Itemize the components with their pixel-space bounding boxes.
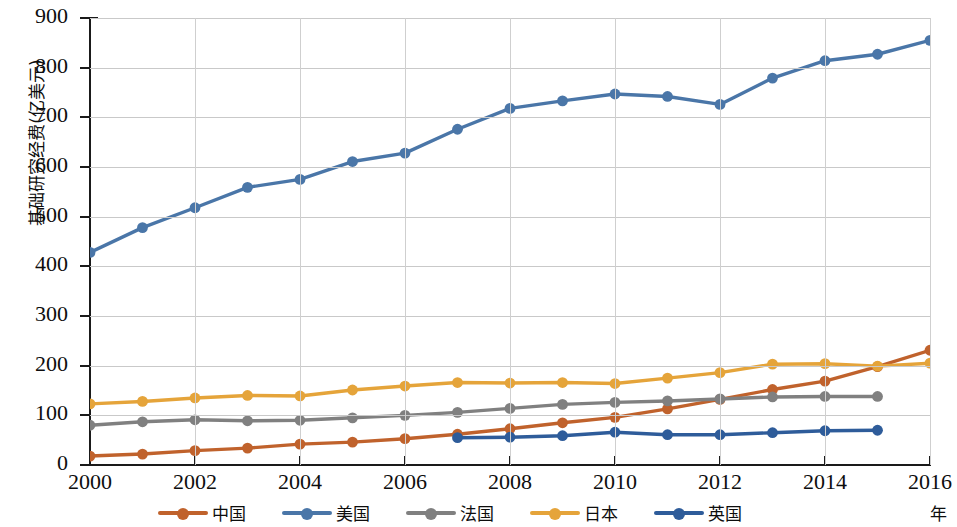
vertical-gridline bbox=[300, 18, 301, 465]
y-axis-tick-label: 600 bbox=[0, 154, 68, 176]
data-point bbox=[452, 124, 463, 135]
y-axis-tick bbox=[80, 216, 90, 218]
y-axis-tick-label: 300 bbox=[0, 303, 68, 325]
data-point bbox=[557, 96, 568, 107]
legend-swatch-icon bbox=[406, 505, 456, 521]
y-axis-tick bbox=[80, 265, 90, 267]
y-axis-tick bbox=[80, 365, 90, 367]
data-point bbox=[90, 451, 95, 462]
data-point bbox=[137, 222, 148, 233]
y-axis-tick bbox=[80, 414, 90, 416]
x-axis-tick-label: 2006 bbox=[362, 471, 448, 493]
legend-item-日本[interactable]: 日本 bbox=[530, 500, 618, 525]
y-axis-tick-label: 700 bbox=[0, 104, 68, 126]
legend-marker-dot-icon bbox=[301, 508, 313, 520]
x-axis-title: 年 bbox=[930, 500, 947, 525]
data-point bbox=[662, 429, 673, 440]
y-axis-title: 基础研究经费(亿美元) bbox=[23, 13, 48, 273]
legend-marker-dot-icon bbox=[673, 508, 685, 520]
data-point bbox=[662, 373, 673, 384]
legend-item-中国[interactable]: 中国 bbox=[158, 500, 246, 525]
vertical-gridline bbox=[405, 18, 406, 465]
y-axis-tick bbox=[80, 166, 90, 168]
legend-marker-dot-icon bbox=[177, 508, 189, 520]
legend-label: 法国 bbox=[460, 500, 494, 525]
y-axis-tick bbox=[80, 315, 90, 317]
vertical-gridline bbox=[825, 18, 826, 465]
data-point bbox=[242, 415, 253, 426]
data-point bbox=[767, 392, 778, 403]
data-point bbox=[767, 359, 778, 370]
data-point bbox=[137, 396, 148, 407]
data-point bbox=[557, 377, 568, 388]
legend-label: 英国 bbox=[708, 500, 742, 525]
vertical-gridline bbox=[930, 18, 931, 465]
data-point bbox=[347, 437, 358, 448]
vertical-gridline bbox=[615, 18, 616, 465]
data-point bbox=[242, 390, 253, 401]
plot-area bbox=[90, 18, 930, 465]
data-point bbox=[137, 449, 148, 460]
data-point bbox=[557, 430, 568, 441]
x-axis-tick-label: 2002 bbox=[152, 471, 238, 493]
legend-item-英国[interactable]: 英国 bbox=[654, 500, 742, 525]
data-point bbox=[347, 156, 358, 167]
data-point bbox=[452, 377, 463, 388]
data-point bbox=[557, 399, 568, 410]
y-axis-tick bbox=[80, 116, 90, 118]
data-point bbox=[347, 385, 358, 396]
x-axis-tick-label: 2004 bbox=[257, 471, 343, 493]
vertical-gridline bbox=[720, 18, 721, 465]
vertical-gridline bbox=[195, 18, 196, 465]
data-point bbox=[557, 417, 568, 428]
legend-item-法国[interactable]: 法国 bbox=[406, 500, 494, 525]
y-axis-tick-label: 900 bbox=[0, 5, 68, 27]
legend-label: 美国 bbox=[336, 500, 370, 525]
y-axis-tick-label: 500 bbox=[0, 204, 68, 226]
x-axis-tick-label: 2010 bbox=[572, 471, 658, 493]
data-point bbox=[90, 420, 95, 431]
legend-marker-dot-icon bbox=[425, 508, 437, 520]
data-point bbox=[767, 427, 778, 438]
legend-swatch-icon bbox=[654, 505, 704, 521]
x-axis-tick-label: 2012 bbox=[677, 471, 763, 493]
data-point bbox=[872, 49, 883, 60]
data-point bbox=[872, 425, 883, 436]
legend-swatch-icon bbox=[282, 505, 332, 521]
data-point bbox=[452, 432, 463, 443]
data-point bbox=[767, 73, 778, 84]
chart-legend: 中国美国法国日本英国 bbox=[0, 500, 900, 525]
data-point bbox=[242, 182, 253, 193]
y-axis-tick-label: 400 bbox=[0, 253, 68, 275]
data-point bbox=[242, 443, 253, 454]
data-point bbox=[662, 396, 673, 407]
y-axis-tick bbox=[80, 67, 90, 69]
series-line bbox=[90, 396, 878, 425]
line-chart-figure: 基础研究经费(亿美元) 0100200300400500600700800900… bbox=[0, 0, 957, 527]
legend-label: 中国 bbox=[212, 500, 246, 525]
data-point bbox=[872, 391, 883, 402]
x-axis-tick-label: 2014 bbox=[782, 471, 868, 493]
vertical-gridline bbox=[510, 18, 511, 465]
legend-swatch-icon bbox=[530, 505, 580, 521]
legend-swatch-icon bbox=[158, 505, 208, 521]
data-point bbox=[662, 91, 673, 102]
legend-marker-dot-icon bbox=[549, 508, 561, 520]
legend-label: 日本 bbox=[584, 500, 618, 525]
data-point bbox=[347, 412, 358, 423]
x-axis-tick-label: 2016 bbox=[887, 471, 957, 493]
y-axis-tick-label: 800 bbox=[0, 55, 68, 77]
y-axis-tick bbox=[80, 17, 90, 19]
data-point bbox=[137, 416, 148, 427]
x-axis-tick-label: 2000 bbox=[47, 471, 133, 493]
y-axis-tick-label: 200 bbox=[0, 353, 68, 375]
legend-item-美国[interactable]: 美国 bbox=[282, 500, 370, 525]
data-point bbox=[90, 399, 95, 410]
x-axis-tick-label: 2008 bbox=[467, 471, 553, 493]
y-axis-tick-label: 100 bbox=[0, 402, 68, 424]
